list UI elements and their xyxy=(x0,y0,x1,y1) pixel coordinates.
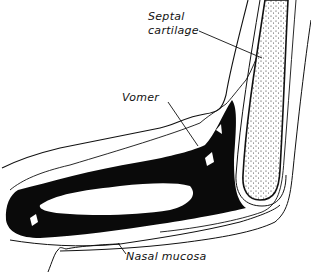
label-septal-line2: cartilage xyxy=(148,24,199,37)
septal-cartilage xyxy=(243,0,288,200)
label-nasal-mucosa: Nasal mucosa xyxy=(126,250,207,263)
label-septal-line1: Septal xyxy=(148,10,185,23)
bottom-mucosa-line xyxy=(48,244,120,272)
nasal-septum-diagram: Septal cartilage Vomer Nasal mucosa xyxy=(0,0,311,272)
label-vomer: Vomer xyxy=(122,91,160,104)
vomer-bone xyxy=(6,100,246,238)
